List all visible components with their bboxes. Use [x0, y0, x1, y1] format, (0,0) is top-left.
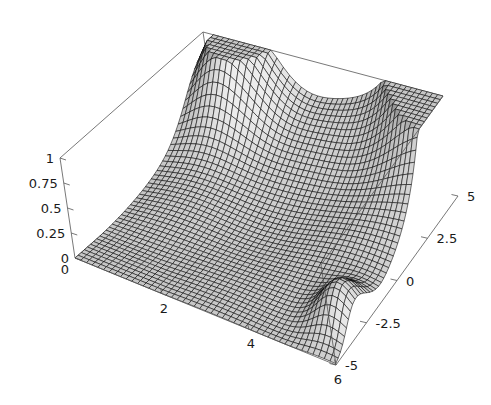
z-tick-label-4: 1: [46, 151, 54, 166]
x-tick-label-1: 2: [160, 301, 168, 316]
x-tick-label-0: 0: [61, 262, 69, 277]
y-tick-label-2: 0: [406, 274, 414, 289]
z-tick-4: [60, 158, 66, 160]
y-tick-label-4: 5: [467, 189, 475, 204]
y-tick-1: [360, 321, 367, 323]
x-tick-label-2: 4: [247, 336, 255, 351]
y-tick-2: [391, 279, 398, 281]
x-tick-label-3: 6: [334, 372, 342, 387]
y-tick-label-0: -5: [345, 358, 358, 373]
z-tick-3: [64, 183, 70, 185]
plot-canvas: 00.250.50.7510246-5-2.502.55: [0, 0, 491, 405]
y-tick-3: [421, 237, 428, 239]
z-tick-1: [71, 233, 77, 235]
z-tick-2: [68, 208, 74, 210]
y-tick-label-1: -2.5: [376, 316, 401, 331]
y-tick-label-3: 2.5: [437, 231, 458, 246]
z-tick-label-3: 0.75: [29, 176, 58, 191]
y-tick-4: [452, 195, 459, 197]
z-tick-label-1: 0.25: [36, 226, 65, 241]
surface-plot-figure: 00.250.50.7510246-5-2.502.55: [0, 0, 491, 405]
surface-mesh: [75, 35, 443, 364]
z-tick-label-2: 0.5: [41, 201, 62, 216]
